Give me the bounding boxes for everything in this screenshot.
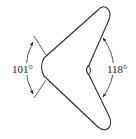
- extension-line-upper: [34, 36, 46, 55]
- angle-label-left: 101°: [12, 63, 33, 75]
- boomerang-outline: [42, 7, 111, 130]
- extension-line-lower: [34, 80, 46, 98]
- boomerang-diagram: 101° 118°: [0, 0, 136, 139]
- angle-label-right: 118°: [107, 63, 128, 75]
